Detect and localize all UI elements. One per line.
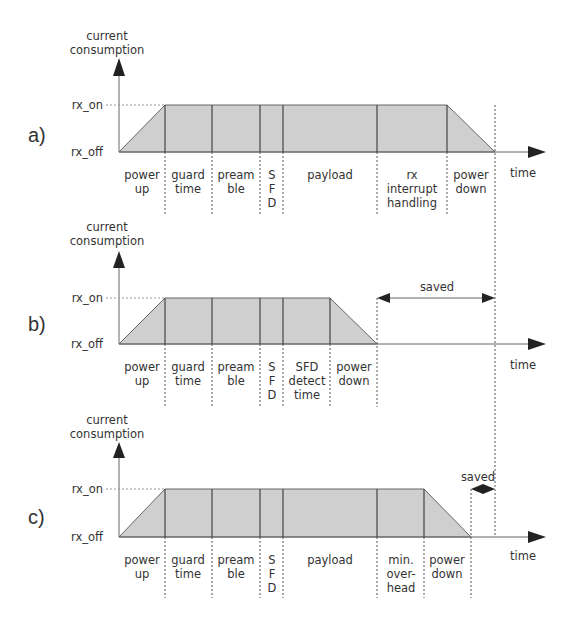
svg-text:power: power — [124, 360, 160, 374]
svg-text:S: S — [268, 553, 275, 567]
phase-payload: payload — [307, 168, 353, 182]
svg-text:power: power — [429, 553, 465, 567]
svg-text:D: D — [268, 388, 277, 402]
phase-min-overhead: min.over-head — [386, 553, 415, 595]
saved-label: saved — [420, 280, 454, 294]
panel-c: current consumption rx_on rx_off c) time… — [28, 413, 546, 598]
phase-power-up: powerup — [124, 168, 160, 196]
svg-text:time: time — [175, 374, 201, 388]
panel-tag: a) — [28, 124, 46, 146]
phase-power-up: powerup — [124, 360, 160, 388]
consumption-area — [119, 105, 495, 152]
y-axis-label-line2: consumption — [70, 427, 144, 441]
y-axis-arrowhead-icon — [113, 251, 125, 268]
phase-power-up: powerup — [124, 553, 160, 581]
svg-text:S: S — [268, 360, 275, 374]
current-consumption-diagram: current consumption rx_on rx_off a) time… — [0, 0, 574, 633]
svg-text:time: time — [175, 567, 201, 581]
panel-tag: b) — [28, 313, 46, 335]
svg-text:pream: pream — [217, 360, 254, 374]
svg-text:power: power — [336, 360, 372, 374]
level-rx-on: rx_on — [72, 291, 103, 305]
svg-text:up: up — [135, 182, 150, 196]
panel-tag: c) — [28, 506, 45, 528]
svg-text:payload: payload — [307, 168, 353, 182]
x-axis-label: time — [510, 549, 536, 563]
phase-sfd: SFD — [268, 168, 277, 210]
svg-text:pream: pream — [217, 553, 254, 567]
time-axis-arrowhead-icon — [528, 531, 546, 543]
svg-text:head: head — [387, 581, 416, 595]
svg-text:guard: guard — [171, 553, 204, 567]
y-axis-label-line1: current — [86, 413, 128, 427]
svg-text:payload: payload — [307, 553, 353, 567]
phase-preamble: preamble — [217, 360, 254, 388]
phase-payload: payload — [307, 553, 353, 567]
svg-text:interrupt: interrupt — [387, 182, 438, 196]
phase-rx-interrupt-handling: rxinterrupthandling — [387, 168, 438, 210]
phase-power-down: powerdown — [453, 168, 489, 196]
phase-guard-time: guardtime — [171, 168, 204, 196]
svg-text:up: up — [135, 374, 150, 388]
saved-label: saved — [461, 470, 495, 484]
phase-preamble: preamble — [217, 553, 254, 581]
phase-guard-time: guardtime — [171, 553, 204, 581]
svg-text:ble: ble — [227, 182, 245, 196]
saved-arrowhead-left-icon — [471, 484, 483, 494]
svg-text:rx: rx — [406, 168, 417, 182]
level-rx-off: rx_off — [71, 145, 104, 159]
svg-text:guard: guard — [171, 168, 204, 182]
level-rx-on: rx_on — [72, 482, 103, 496]
svg-text:time: time — [294, 388, 320, 402]
phase-sfd: SFD — [268, 553, 277, 595]
y-axis-arrowhead-icon — [113, 58, 125, 76]
svg-text:time: time — [175, 182, 201, 196]
y-axis-label-line1: current — [86, 220, 128, 234]
saved-arrowhead-right-icon — [483, 484, 495, 494]
level-rx-on: rx_on — [72, 98, 103, 112]
time-axis-arrowhead-icon — [528, 338, 546, 350]
saved-arrowhead-right-icon — [482, 293, 495, 303]
svg-text:over-: over- — [386, 567, 415, 581]
level-rx-off: rx_off — [71, 337, 104, 351]
svg-text:D: D — [268, 581, 277, 595]
phase-sfd: SFD — [268, 360, 277, 402]
svg-text:up: up — [135, 567, 150, 581]
svg-text:F: F — [269, 567, 276, 581]
svg-text:down: down — [431, 567, 462, 581]
y-axis-arrowhead-icon — [113, 442, 125, 458]
svg-text:down: down — [338, 374, 369, 388]
svg-text:guard: guard — [171, 360, 204, 374]
time-axis-arrowhead-icon — [528, 146, 546, 158]
svg-text:F: F — [269, 374, 276, 388]
svg-text:pream: pream — [217, 168, 254, 182]
svg-text:F: F — [269, 182, 276, 196]
svg-text:detect: detect — [289, 374, 326, 388]
svg-text:ble: ble — [227, 374, 245, 388]
svg-text:ble: ble — [227, 567, 245, 581]
svg-text:power: power — [453, 168, 489, 182]
y-axis-label-line2: consumption — [70, 234, 144, 248]
consumption-area — [119, 489, 471, 537]
phase-guard-time: guardtime — [171, 360, 204, 388]
phase-power-down: powerdown — [429, 553, 465, 581]
svg-text:D: D — [268, 196, 277, 210]
svg-text:power: power — [124, 553, 160, 567]
svg-text:SFD: SFD — [296, 360, 319, 374]
panel-a: current consumption rx_on rx_off a) time… — [28, 29, 546, 215]
phase-preamble: preamble — [217, 168, 254, 196]
phase-sfd-detect-time: SFDdetecttime — [289, 360, 326, 402]
svg-text:min.: min. — [388, 553, 413, 567]
y-axis-label-line2: consumption — [70, 43, 144, 57]
phase-power-down: powerdown — [336, 360, 372, 388]
saved-arrowhead-left-icon — [377, 293, 390, 303]
y-axis-label-line1: current — [86, 29, 128, 43]
level-rx-off: rx_off — [71, 530, 104, 544]
x-axis-label: time — [510, 166, 536, 180]
svg-text:handling: handling — [387, 196, 437, 210]
panel-b: current consumption rx_on rx_off b) time… — [28, 220, 546, 407]
x-axis-label: time — [510, 358, 536, 372]
svg-text:power: power — [124, 168, 160, 182]
svg-text:S: S — [268, 168, 275, 182]
svg-text:down: down — [455, 182, 486, 196]
